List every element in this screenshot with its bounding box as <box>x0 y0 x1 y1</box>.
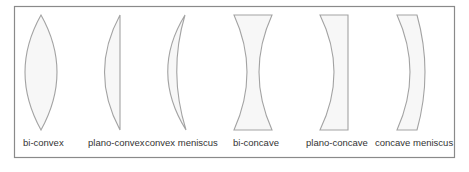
plano-convex-label: plano-convex <box>88 137 145 148</box>
bi-convex-label: bi-convex <box>23 137 64 148</box>
diagram-frame <box>15 7 455 158</box>
convex-meniscus-label: convex meniscus <box>145 137 218 148</box>
lens-types-diagram: bi-convex plano-convex convex meniscus b… <box>0 0 469 172</box>
bi-concave-label: bi-concave <box>233 137 279 148</box>
plano-concave-label: plano-concave <box>306 137 368 148</box>
concave-meniscus-label: concave meniscus <box>375 137 453 148</box>
